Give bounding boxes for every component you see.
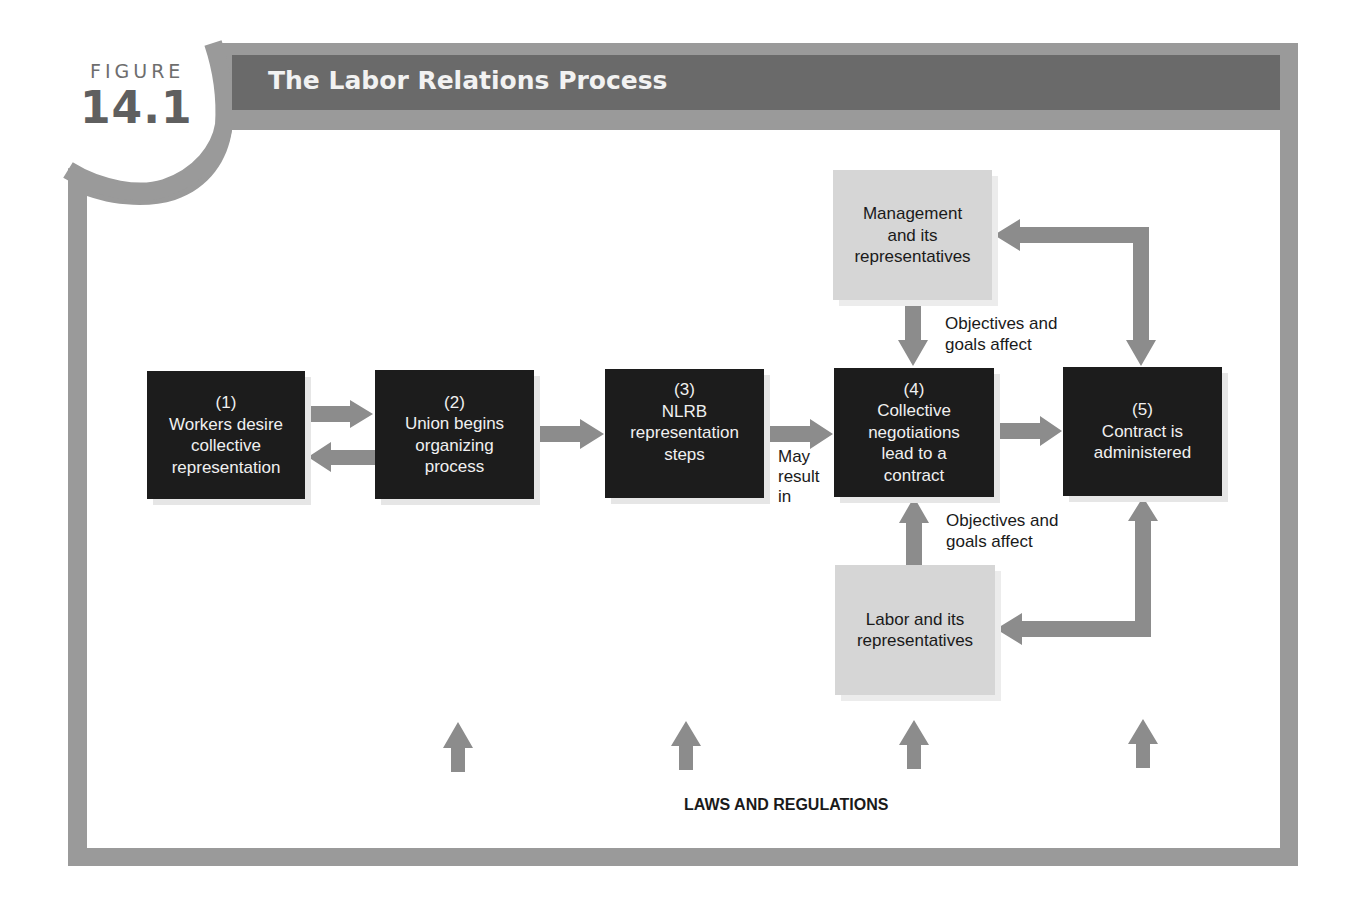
step-text: Collective <box>868 400 960 422</box>
party-text: representatives <box>854 246 970 268</box>
step-3-nlrb-steps: (3) NLRB representation steps <box>605 369 764 498</box>
step-text: contract <box>868 465 960 487</box>
step-number: (2) <box>405 392 504 414</box>
step-text: organizing <box>405 435 504 457</box>
annotation-text: result <box>778 467 820 487</box>
step-number: (4) <box>868 379 960 401</box>
party-text: Labor and its <box>857 609 973 631</box>
step-5-contract-administered: (5) Contract is administered <box>1063 367 1222 496</box>
laws-and-regulations-label: LAWS AND REGULATIONS <box>684 796 888 814</box>
party-text: representatives <box>857 630 973 652</box>
step-text: steps <box>630 444 739 466</box>
figure-label: FIGURE <box>90 60 182 82</box>
step-text: representation <box>169 457 283 479</box>
step-2-union-organizing: (2) Union begins organizing process <box>375 370 534 499</box>
step-text: Contract is <box>1094 421 1191 443</box>
step-text: administered <box>1094 442 1191 464</box>
figure-number: 14.1 <box>80 82 190 133</box>
management-box: Management and its representatives <box>833 170 992 300</box>
party-text: and its <box>854 225 970 247</box>
step-number: (1) <box>169 392 283 414</box>
may-result-in-label: May result in <box>778 447 820 507</box>
step-number: (3) <box>630 379 739 401</box>
step-1-workers-desire-representation: (1) Workers desire collective representa… <box>147 371 305 499</box>
annotation-text: in <box>778 487 820 507</box>
annotation-text: goals affect <box>945 334 1057 355</box>
step-text: Workers desire <box>169 414 283 436</box>
step-text: representation <box>630 422 739 444</box>
step-text: negotiations <box>868 422 960 444</box>
step-text: collective <box>169 435 283 457</box>
step-text: NLRB <box>630 401 739 423</box>
objectives-top-label: Objectives and goals affect <box>945 313 1057 355</box>
labor-box: Labor and its representatives <box>835 565 995 695</box>
annotation-text: Objectives and <box>946 510 1058 531</box>
step-text: lead to a <box>868 443 960 465</box>
annotation-text: goals affect <box>946 531 1058 552</box>
step-text: Union begins <box>405 413 504 435</box>
annotation-text: May <box>778 447 820 467</box>
step-text: process <box>405 456 504 478</box>
step-number: (5) <box>1094 399 1191 421</box>
figure-title: The Labor Relations Process <box>268 66 668 95</box>
annotation-text: Objectives and <box>945 313 1057 334</box>
objectives-bottom-label: Objectives and goals affect <box>946 510 1058 552</box>
party-text: Management <box>854 203 970 225</box>
step-4-collective-negotiations: (4) Collective negotiations lead to a co… <box>834 368 994 497</box>
